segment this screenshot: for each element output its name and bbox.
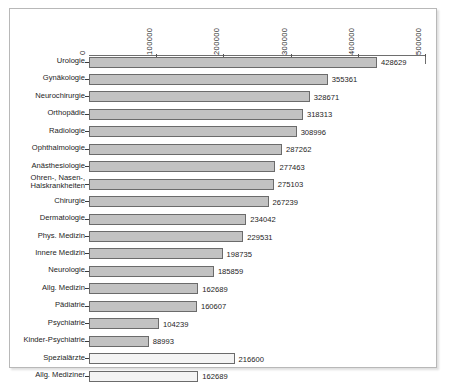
- category-label: Allg. Medizin: [42, 284, 85, 293]
- bar-allg-mediziner[interactable]: [89, 371, 198, 382]
- bar-value-label: 308996: [301, 128, 326, 137]
- chart-row: Neurochirurgie328671: [0, 91, 454, 109]
- bar-value-label: 185859: [218, 267, 243, 276]
- bar-value-label: 355361: [332, 75, 357, 84]
- chart-row: Psychiatrie104239: [0, 318, 454, 336]
- bar-value-label: 198735: [227, 250, 252, 259]
- chart-row: Gynäkologie355361: [0, 74, 454, 92]
- x-axis-tick-label-200000: 200000: [212, 28, 221, 55]
- bar-chart-plot: 0100000200000300000400000500000Urologie4…: [0, 0, 454, 384]
- category-label: Anästhesiologie: [31, 162, 85, 171]
- bar-neurochirurgie[interactable]: [89, 91, 310, 102]
- chart-row: Allg. Medizin162689: [0, 283, 454, 301]
- bar-urologie[interactable]: [89, 57, 377, 68]
- chart-row: Neurologie185859: [0, 266, 454, 284]
- bar-value-label: 162689: [202, 372, 227, 381]
- category-label: Neurochirurgie: [35, 92, 85, 101]
- category-label: Ophthalmologie: [32, 144, 85, 153]
- category-label: Neurologie: [48, 266, 85, 275]
- x-axis-tick-label-0: 0: [78, 50, 87, 55]
- bar-value-label: 267239: [273, 198, 298, 207]
- bar-value-label: 275103: [278, 180, 303, 189]
- category-label: Radiologie: [49, 127, 85, 136]
- chart-row: Pädiatrie160607: [0, 301, 454, 319]
- bar-phys-medizin[interactable]: [89, 231, 243, 242]
- bar-anästhesiologie[interactable]: [89, 161, 275, 172]
- category-label: Chirurgie: [54, 197, 85, 206]
- x-axis-tick-label-300000: 300000: [280, 28, 289, 55]
- chart-row: Spezialärzte216600: [0, 353, 454, 371]
- bar-dermatologie[interactable]: [89, 214, 246, 225]
- bar-chirurgie[interactable]: [89, 196, 269, 207]
- chart-row: Ophthalmologie287262: [0, 144, 454, 162]
- chart-row: Orthopädie318313: [0, 109, 454, 127]
- category-label: Urologie: [57, 57, 85, 66]
- category-label: Kinder-Psychiatrie: [23, 336, 85, 345]
- bar-radiologie[interactable]: [89, 126, 297, 137]
- chart-row: Innere Medizin198735: [0, 248, 454, 266]
- bar-value-label: 318313: [307, 110, 332, 119]
- chart-row: Allg. Mediziner162689: [0, 371, 454, 384]
- bar-kinder-psychiatrie[interactable]: [89, 336, 149, 347]
- chart-row: Chirurgie267239: [0, 196, 454, 214]
- category-label: Dermatologie: [40, 214, 85, 223]
- chart-row: Radiologie308996: [0, 126, 454, 144]
- chart-row: Urologie428629: [0, 57, 454, 75]
- category-label: Phys. Medizin: [38, 232, 85, 241]
- bar-orthopädie[interactable]: [89, 109, 303, 120]
- bar-ophthalmologie[interactable]: [89, 144, 282, 155]
- bar-value-label: 88993: [153, 337, 174, 346]
- bar-value-label: 104239: [163, 320, 188, 329]
- bar-value-label: 234042: [250, 215, 275, 224]
- bar-innere-medizin[interactable]: [89, 248, 223, 259]
- bar-spezialärzte[interactable]: [89, 353, 235, 364]
- category-label: Psychiatrie: [48, 319, 85, 328]
- bar-value-label: 216600: [239, 355, 264, 364]
- chart-row: Ohren-, Nasen-,Halskrankheiten275103: [0, 179, 454, 197]
- chart-row: Dermatologie234042: [0, 214, 454, 232]
- x-axis-tick-label-400000: 400000: [347, 28, 356, 55]
- bar-value-label: 428629: [381, 58, 406, 67]
- chart-page: 0100000200000300000400000500000Urologie4…: [0, 0, 454, 384]
- x-axis-tick-label-100000: 100000: [145, 28, 154, 55]
- category-label: Spezialärzte: [43, 354, 85, 363]
- bar-value-label: 328671: [314, 93, 339, 102]
- bar-value-label: 277463: [279, 163, 304, 172]
- category-label: Allg. Mediziner: [35, 371, 85, 380]
- category-label: Innere Medizin: [35, 249, 85, 258]
- bar-neurologie[interactable]: [89, 266, 214, 277]
- category-label: Gynäkologie: [43, 74, 85, 83]
- chart-row: Phys. Medizin229531: [0, 231, 454, 249]
- bar-gynäkologie[interactable]: [89, 74, 328, 85]
- bar-pädiatrie[interactable]: [89, 301, 197, 312]
- category-label: Ohren-, Nasen-,Halskrankheiten: [31, 174, 85, 191]
- bar-value-label: 162689: [202, 285, 227, 294]
- bar-value-label: 287262: [286, 145, 311, 154]
- bar-value-label: 229531: [247, 233, 272, 242]
- x-axis-tick-label-500000: 500000: [414, 28, 423, 55]
- chart-row: Kinder-Psychiatrie88993: [0, 336, 454, 354]
- bar-allg-medizin[interactable]: [89, 283, 198, 294]
- bar-ohren-nasen-halskrankheiten[interactable]: [89, 179, 274, 190]
- bar-value-label: 160607: [201, 302, 226, 311]
- bar-psychiatrie[interactable]: [89, 318, 159, 329]
- category-label: Orthopädie: [47, 109, 85, 118]
- category-label: Pädiatrie: [55, 301, 85, 310]
